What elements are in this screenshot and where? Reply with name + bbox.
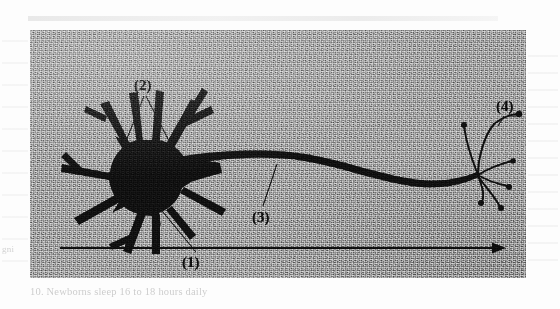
label-1: (1): [182, 255, 200, 270]
bouton-5: [478, 200, 484, 206]
dendrite-down-3: [166, 206, 196, 240]
terminal-branch-3: [478, 161, 512, 175]
dendrite-left-2: [74, 195, 120, 225]
label-3: (3): [252, 210, 270, 225]
neuron-body-group: [61, 88, 479, 254]
dendrite-left-1: [61, 164, 110, 180]
neuron-illustration: [30, 30, 526, 278]
ghost-top-rule: [28, 16, 498, 21]
dendrite-up-left-2: [129, 92, 143, 144]
bouton-4: [506, 184, 512, 190]
ghost-right-column: [528, 55, 558, 270]
axon: [182, 150, 479, 187]
terminal-branch-1: [464, 126, 478, 175]
scanned-page: gni 10. Newborns sleep 16 to 18 hours da…: [0, 0, 560, 309]
figure-panel: (1) (2) (3) (4) Direction of information…: [30, 30, 526, 278]
soma-and-dendrites: [96, 136, 222, 226]
ghost-bottom-text: 10. Newborns sleep 16 to 18 hours daily: [30, 286, 208, 297]
dendrite-down-right: [180, 187, 226, 216]
dendrite-up-left-1: [100, 101, 131, 150]
label-2: (2): [134, 78, 152, 93]
bouton-1: [461, 122, 467, 128]
label-4: (4): [496, 99, 514, 114]
leader-line-3: [263, 164, 277, 206]
axon-terminals-group: [464, 114, 518, 207]
dendrite-up-mid: [152, 90, 164, 140]
terminal-branch-4: [478, 175, 508, 186]
bouton-3: [510, 158, 516, 164]
flow-arrow-head: [492, 243, 506, 254]
bouton-6: [498, 205, 504, 211]
ghost-left-margin-text: gni: [2, 244, 14, 254]
